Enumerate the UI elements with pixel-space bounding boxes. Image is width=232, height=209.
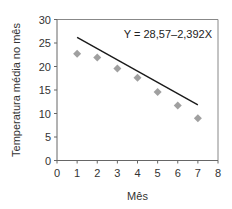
x-tick-label: 3 bbox=[114, 167, 120, 179]
x-axis-label: Mês bbox=[127, 190, 148, 202]
regression-equation: Y = 28,57–2,392X bbox=[124, 28, 213, 40]
y-ticks: 051015202530 bbox=[39, 14, 57, 167]
data-point bbox=[154, 88, 162, 96]
x-tick-label: 2 bbox=[94, 167, 100, 179]
x-tick-label: 5 bbox=[155, 167, 161, 179]
y-tick-label: 25 bbox=[39, 37, 51, 49]
y-tick-label: 10 bbox=[39, 108, 51, 120]
x-tick-label: 8 bbox=[215, 167, 221, 179]
y-axis-label: Temperatura média no mês bbox=[10, 23, 22, 157]
data-point bbox=[93, 54, 101, 62]
y-tick-label: 0 bbox=[45, 155, 51, 167]
trendline-group bbox=[77, 37, 198, 104]
data-point bbox=[174, 102, 182, 110]
axes bbox=[57, 20, 218, 161]
x-ticks: 012345678 bbox=[54, 161, 221, 179]
data-point bbox=[134, 74, 142, 82]
data-point bbox=[194, 114, 202, 122]
trendline bbox=[77, 37, 198, 104]
y-tick-label: 15 bbox=[39, 84, 51, 96]
x-tick-label: 1 bbox=[74, 167, 80, 179]
x-tick-label: 4 bbox=[134, 167, 140, 179]
x-tick-label: 0 bbox=[54, 167, 60, 179]
scatter-chart: 012345678 051015202530 Y = 28,57–2,392X … bbox=[0, 0, 232, 209]
data-point bbox=[113, 64, 121, 72]
y-tick-label: 5 bbox=[45, 131, 51, 143]
data-points bbox=[73, 50, 202, 122]
data-point bbox=[73, 50, 81, 58]
x-tick-label: 7 bbox=[195, 167, 201, 179]
x-tick-label: 6 bbox=[175, 167, 181, 179]
y-tick-label: 30 bbox=[39, 14, 51, 26]
y-tick-label: 20 bbox=[39, 61, 51, 73]
